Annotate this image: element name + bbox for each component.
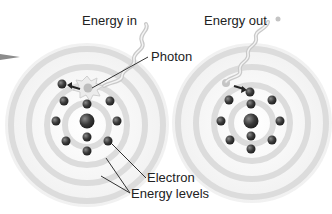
photon-icon xyxy=(84,84,93,93)
label-energy-in: Energy in xyxy=(82,14,137,28)
label-energy-out: Energy out xyxy=(204,14,267,28)
label-photon: Photon xyxy=(151,50,192,64)
nucleus xyxy=(80,114,95,129)
absorbing-atom xyxy=(5,43,169,207)
nucleus xyxy=(244,114,259,129)
incoming-arrow-icon xyxy=(0,54,20,60)
label-energy-levels: Energy levels xyxy=(131,187,209,201)
label-electron: Electron xyxy=(147,171,195,185)
emitting-atom xyxy=(172,43,332,203)
